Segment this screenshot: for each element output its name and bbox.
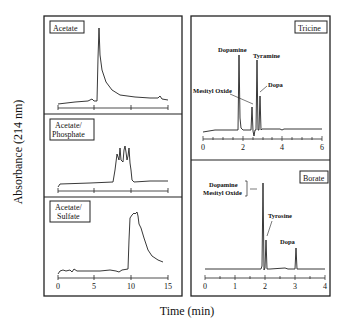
figure-canvas: Absorbance (214 nm) Acetate Acetate/ Pho… — [0, 0, 346, 333]
annotation-mesityl-oxide-borate: Mesityl Oxide — [203, 189, 242, 196]
left-panel-group: Acetate Acetate/ Phosphate Acetate/ — [44, 16, 182, 296]
tick-borate-3: 3 — [293, 282, 297, 291]
tick-left-5: 5 — [92, 282, 96, 291]
tick-left-15: 15 — [164, 282, 172, 291]
arrow-mesityl-oxide — [230, 94, 253, 104]
tick-tricine-2: 2 — [241, 143, 245, 152]
panel-label-acetate-phosphate-line1: Acetate/ — [55, 121, 82, 130]
trace-acetate-phosphate — [58, 146, 168, 187]
arrow-tyrosine — [267, 221, 272, 236]
panel-label-borate: Borate — [303, 174, 325, 183]
arrow-dopa — [260, 86, 267, 92]
tick-left-0: 0 — [56, 282, 60, 291]
annotation-dopamine: Dopamine — [218, 46, 247, 53]
panel-tricine: Tricine Dopamine Tyramine Mesityl Oxide … — [193, 21, 327, 152]
trace-tricine — [203, 55, 322, 136]
tick-left-10: 10 — [127, 282, 135, 291]
annotation-dopa: Dopa — [268, 81, 284, 88]
panel-acetate-phosphate: Acetate/ Phosphate — [50, 119, 168, 193]
x-axis-label: Time (min) — [160, 304, 215, 318]
panel-label-tricine: Tricine — [298, 24, 321, 33]
tick-tricine-0: 0 — [201, 143, 205, 152]
y-axis-label: Absorbance (214 nm) — [11, 100, 25, 205]
tick-borate-1: 1 — [233, 282, 237, 291]
tick-borate-2: 2 — [263, 282, 267, 291]
trace-borate — [205, 183, 325, 270]
tick-tricine-4: 4 — [280, 143, 284, 152]
panel-acetate: Acetate — [50, 21, 168, 110]
panel-label-acetate: Acetate — [53, 24, 78, 33]
tick-borate-4: 4 — [323, 282, 327, 291]
bracket-icon — [245, 181, 247, 196]
annotation-dopamine-borate: Dopamine — [209, 181, 238, 188]
tick-borate-0: 0 — [203, 282, 207, 291]
tick-tricine-6: 6 — [320, 143, 324, 152]
panel-label-acetate-phosphate-line2: Phosphate — [52, 130, 85, 139]
panel-acetate-sulfate: Acetate/ Sulfate 0 5 10 15 — [50, 201, 172, 291]
panel-label-acetate-sulfate-line1: Acetate/ — [55, 203, 82, 212]
annotation-dopa-borate: Dopa — [280, 238, 296, 245]
panel-label-acetate-sulfate-line2: Sulfate — [57, 212, 80, 221]
panel-borate: Borate Dopamine Mesityl Oxide Tyrosine D… — [203, 171, 328, 291]
right-panel-group: Tricine Dopamine Tyramine Mesityl Oxide … — [191, 16, 330, 296]
annotation-tyrosine: Tyrosine — [268, 212, 292, 219]
trace-acetate — [58, 28, 168, 104]
annotation-mesityl-oxide: Mesityl Oxide — [193, 87, 232, 94]
annotation-tyramine: Tyramine — [253, 52, 280, 59]
